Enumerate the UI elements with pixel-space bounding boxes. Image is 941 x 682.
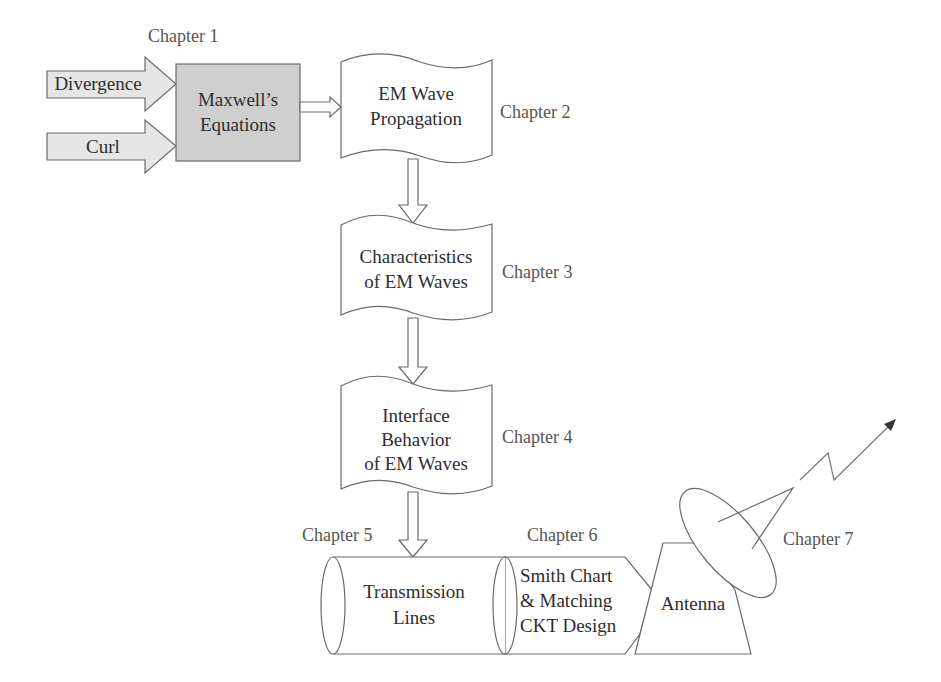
radiation-arrow-icon: [800, 419, 896, 480]
chapter-6-label: Chapter 6: [527, 525, 597, 545]
chapter-1-label: Chapter 1: [148, 26, 218, 46]
arrow-interface-to-transmission: [399, 492, 427, 557]
em-roadmap-diagram: Chapter 1 Divergence Curl Maxwell’s Equa…: [0, 0, 941, 682]
propagation-line-1: EM Wave: [378, 83, 454, 104]
propagation-box: EM Wave Propagation: [341, 54, 492, 163]
maxwell-equations-box: Maxwell’s Equations: [176, 64, 300, 161]
antenna-label: Antenna: [661, 593, 726, 614]
characteristics-line-2: of EM Waves: [364, 271, 468, 292]
maxwell-line-1: Maxwell’s: [198, 89, 278, 110]
smith-line-3: CKT Design: [520, 615, 617, 636]
chapter-4-label: Chapter 4: [502, 427, 572, 447]
chapter-7-label: Chapter 7: [783, 529, 853, 549]
interface-line-1: Interface: [382, 405, 450, 426]
transmission-line-2: Lines: [393, 607, 435, 628]
curl-arrow: Curl: [47, 120, 176, 173]
smith-line-1: Smith Chart: [520, 565, 613, 586]
maxwell-line-2: Equations: [200, 114, 276, 135]
antenna-icon: Antenna: [635, 474, 793, 654]
arrow-characteristics-to-interface: [399, 318, 427, 384]
curl-label: Curl: [86, 136, 120, 157]
divergence-arrow: Divergence: [47, 57, 176, 111]
interface-box: Interface Behavior of EM Waves: [341, 376, 492, 494]
chapter-3-label: Chapter 3: [502, 262, 572, 282]
interface-line-3: of EM Waves: [364, 453, 468, 474]
propagation-line-2: Propagation: [370, 108, 462, 129]
transmission-lines-cylinder: Transmission Lines: [321, 557, 517, 654]
characteristics-line-1: Characteristics: [360, 246, 473, 267]
smith-chart-box: Smith Chart & Matching CKT Design: [505, 557, 652, 654]
characteristics-box: Characteristics of EM Waves: [341, 215, 492, 320]
divergence-label: Divergence: [54, 73, 141, 94]
chapter-5-label: Chapter 5: [302, 525, 372, 545]
smith-line-2: & Matching: [520, 590, 613, 611]
transmission-line-1: Transmission: [363, 581, 465, 602]
chapter-2-label: Chapter 2: [500, 102, 570, 122]
arrow-propagation-to-characteristics: [399, 159, 427, 223]
arrow-maxwell-to-propagation: [300, 97, 341, 117]
interface-line-2: Behavior: [381, 429, 451, 450]
